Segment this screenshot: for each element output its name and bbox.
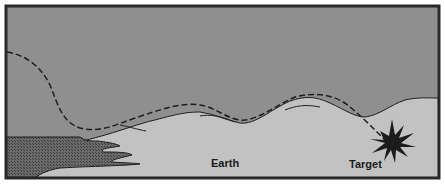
earth-label: Earth xyxy=(211,157,239,169)
target-label: Target xyxy=(349,158,382,170)
